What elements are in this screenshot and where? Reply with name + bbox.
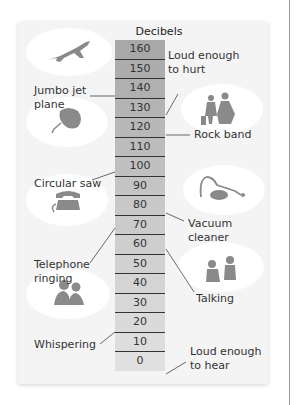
label-loud-enough-to-hear: Loud enough to hear [190, 345, 262, 373]
label-vacuum-cleaner: Vacuum cleaner [188, 217, 232, 245]
label-talking: Talking [196, 292, 234, 306]
decibel-diagram: Decibels 1601501401301201101009080706050… [18, 22, 268, 384]
page-divider [289, 0, 290, 405]
label-rock-band: Rock band [194, 128, 251, 142]
label-jumbo-jet: Jumbo jet plane [34, 84, 86, 112]
label-circular-saw: Circular saw [34, 177, 101, 191]
label-loud-enough-to-hurt: Loud enough to hurt [168, 49, 240, 77]
label-whispering: Whispering [34, 338, 96, 352]
label-telephone-ringing: Telephone ringing [34, 258, 90, 286]
